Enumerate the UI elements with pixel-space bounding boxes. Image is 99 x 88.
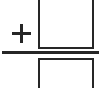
plus-icon: + [12, 24, 31, 43]
document-title: Addition problem with blank answer boxes [0, 0, 1, 1]
answer-box-top[interactable] [38, 0, 94, 49]
plus-icon-vertical-bar [20, 24, 23, 43]
plus-operator-symbol: + [12, 24, 13, 25]
answer-box-bottom[interactable] [38, 58, 94, 88]
addition-worksheet: Addition problem with blank answer boxes… [0, 0, 99, 88]
answer-box-bottom-value [40, 60, 41, 61]
sum-rule [2, 51, 99, 54]
